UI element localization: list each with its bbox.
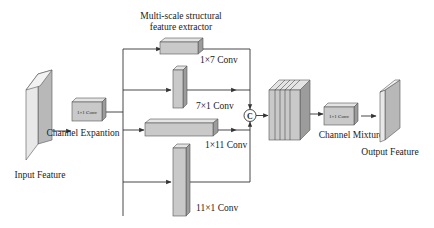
module-title-line2: feature extractor: [150, 22, 213, 32]
channel-expansion-box-text: 1×1 Conv: [77, 110, 97, 115]
branch-1x11-label: 1×11 Conv: [205, 140, 247, 150]
branch-7x1-block: [173, 66, 187, 108]
branch-1x7-block: [160, 38, 203, 54]
module-title-line1: Multi-scale structural: [140, 11, 222, 21]
input-feature-label: Input Feature: [15, 170, 66, 180]
stacked-features-block: [269, 80, 310, 140]
output-feature-label: Output Feature: [361, 147, 418, 157]
architecture-diagram: Multi-scale structural feature extractor…: [0, 0, 434, 228]
input-feature-block: [26, 70, 52, 160]
branch-1x7-label: 1×7 Conv: [200, 55, 238, 65]
channel-mixture-label: Channel Mixture: [319, 130, 384, 140]
concat-symbol: C: [247, 112, 253, 121]
branch-11x1-block: [173, 144, 190, 216]
branch-11x1-label: 11×1 Conv: [196, 203, 238, 213]
channel-expansion-label: Channel Expantion: [46, 128, 119, 138]
output-feature-block: [380, 80, 400, 142]
branch-7x1-label: 7×1 Conv: [196, 101, 234, 111]
branch-1x11-block: [145, 119, 218, 136]
channel-mixture-box-text: 1×1 Conv: [329, 114, 349, 119]
concat-node: C: [244, 110, 256, 122]
